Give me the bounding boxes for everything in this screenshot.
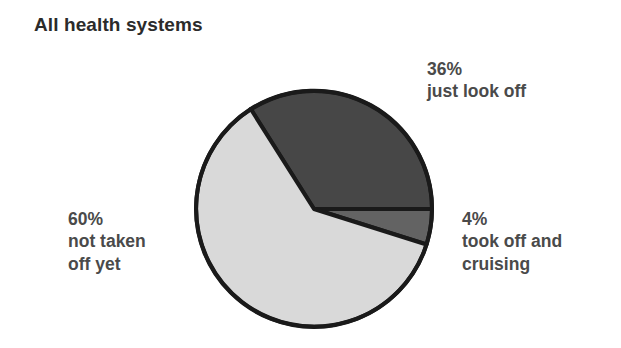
pie-label-text-line1: just look off — [427, 80, 526, 102]
pie-label-just-look-off: 36% just look off — [427, 58, 526, 103]
pie-chart-figure: All health systems 36% just look off 4% … — [0, 0, 621, 348]
pie-label-text-line1: not taken — [68, 230, 146, 252]
pie-label-percent: 60% — [68, 208, 146, 230]
pie-label-percent: 36% — [427, 58, 526, 80]
pie-label-percent: 4% — [462, 208, 562, 230]
pie-label-took-off-and-cruising: 4% took off and cruising — [462, 208, 562, 275]
pie-chart-graphic — [186, 78, 444, 344]
pie-label-text-line2: cruising — [462, 253, 562, 275]
pie-label-not-taken-off-yet: 60% not taken off yet — [68, 208, 146, 275]
chart-title: All health systems — [34, 14, 203, 36]
pie-label-text-line2: off yet — [68, 253, 146, 275]
pie-label-text-line1: took off and — [462, 230, 562, 252]
